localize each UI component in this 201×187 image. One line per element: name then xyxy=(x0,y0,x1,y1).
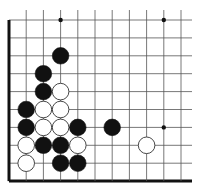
black-stone[interactable] xyxy=(70,155,87,172)
white-stone[interactable] xyxy=(35,101,52,118)
go-board xyxy=(0,0,201,187)
white-stone[interactable] xyxy=(52,119,69,136)
white-stone[interactable] xyxy=(52,101,69,118)
black-stone[interactable] xyxy=(35,137,52,154)
white-stone[interactable] xyxy=(18,155,35,172)
black-stone[interactable] xyxy=(104,119,121,136)
black-stone[interactable] xyxy=(52,155,69,172)
black-stone[interactable] xyxy=(18,119,35,136)
white-stone[interactable] xyxy=(52,83,69,100)
black-stone[interactable] xyxy=(18,101,35,118)
white-stone[interactable] xyxy=(18,137,35,154)
black-stone[interactable] xyxy=(70,119,87,136)
star-point xyxy=(162,18,166,22)
white-stone[interactable] xyxy=(35,119,52,136)
black-stone[interactable] xyxy=(35,65,52,82)
black-stone[interactable] xyxy=(35,83,52,100)
black-stone[interactable] xyxy=(52,137,69,154)
star-point xyxy=(58,18,62,22)
star-point xyxy=(162,125,166,129)
black-stone[interactable] xyxy=(52,48,69,65)
white-stone[interactable] xyxy=(70,137,87,154)
white-stone[interactable] xyxy=(138,137,155,154)
